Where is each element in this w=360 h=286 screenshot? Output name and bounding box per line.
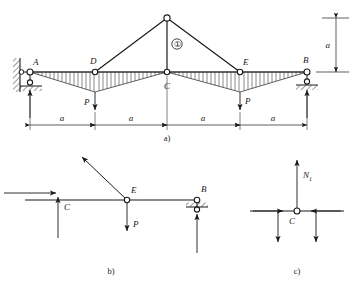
dimension-height: a	[316, 18, 349, 72]
load-p-at-e: P	[240, 92, 251, 110]
node-label-c-panel-b: C	[64, 202, 71, 212]
joint-apex	[164, 15, 170, 21]
force-n1: N1	[297, 160, 312, 208]
load-p-at-d: P	[83, 92, 95, 110]
joint-b-panel-b	[194, 197, 200, 203]
joint-c	[164, 69, 169, 74]
force-inclined-at-e	[82, 157, 127, 200]
span-label-4: a	[271, 113, 276, 123]
span-label-3: a	[201, 113, 206, 123]
figure-svg: ① P	[0, 0, 360, 286]
joint-e	[237, 69, 242, 74]
panel-b: P C E B b)	[4, 157, 208, 276]
support-b-panel-b	[186, 203, 208, 254]
panel-a: ① P	[13, 15, 349, 143]
moment-diagram-right	[167, 72, 307, 92]
load-p-at-e-panel-b: P	[127, 203, 139, 231]
node-label-c-panel-c: C	[289, 216, 296, 226]
engineering-figure: ① P	[0, 0, 360, 286]
force-n1-subscript: 1	[309, 176, 312, 182]
node-label-c: C	[164, 81, 171, 91]
support-a	[19, 69, 42, 118]
joint-d	[92, 69, 97, 74]
load-p-left-label: P	[83, 97, 90, 107]
member-1-callout: ①	[172, 39, 182, 49]
caption-c: c)	[294, 266, 301, 276]
force-n1-label: N1	[302, 170, 312, 182]
joint-c-panel-c	[294, 208, 300, 214]
load-p-right-label: P	[244, 96, 251, 106]
caption-b: b)	[107, 266, 114, 276]
support-a-wall	[13, 58, 20, 92]
caption-a: a)	[164, 133, 171, 143]
node-label-b-panel-b: B	[201, 184, 207, 194]
node-label-b: B	[303, 55, 309, 65]
height-label: a	[326, 40, 331, 50]
moment-diagram-left	[30, 72, 167, 92]
node-label-e-panel-b: E	[130, 185, 137, 195]
member-1-label: ①	[174, 40, 181, 49]
panel-c: N1 C c)	[250, 160, 344, 276]
node-label-e: E	[242, 57, 249, 67]
joint-e-panel-b	[124, 197, 129, 202]
load-p-label-panel-b: P	[132, 219, 139, 229]
node-label-a: A	[32, 57, 39, 67]
truss-member-d-apex	[95, 18, 167, 72]
node-label-d: D	[89, 56, 97, 66]
span-label-2: a	[129, 113, 134, 123]
span-label-1: a	[60, 113, 65, 123]
